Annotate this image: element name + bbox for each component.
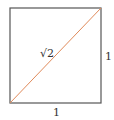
right-side-label: 1 bbox=[105, 50, 112, 63]
square-diagonal-diagram: √2 1 1 bbox=[0, 0, 114, 120]
bottom-side-label: 1 bbox=[53, 106, 60, 119]
diagonal-label: √2 bbox=[40, 47, 54, 60]
diagonal-line bbox=[10, 8, 101, 103]
